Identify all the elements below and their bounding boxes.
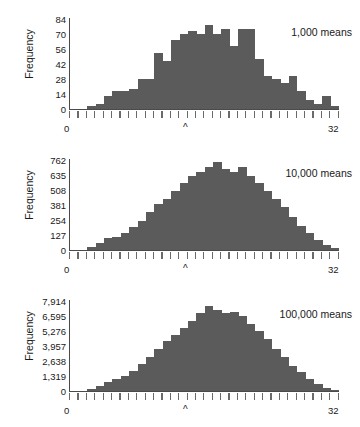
x-axis-tick (262, 252, 263, 259)
x-axis-tick (203, 111, 204, 118)
x-axis-tick (212, 393, 213, 400)
x-axis-tick (220, 252, 221, 259)
y-axis-tick-label: 381 (24, 201, 66, 211)
x-axis-tick (187, 393, 188, 400)
x-axis-tick (296, 252, 297, 259)
y-axis-tick-label: 84 (24, 15, 66, 25)
x-axis-tick (86, 393, 87, 400)
y-axis-tick-label: 7,914 (24, 297, 66, 307)
x-axis-tick (270, 252, 271, 259)
x-axis-tick (287, 393, 288, 400)
x-axis-tick (170, 252, 171, 259)
x-axis-tick (103, 393, 104, 400)
x-axis-tick (304, 393, 305, 400)
x-axis-tick (136, 393, 137, 400)
x-axis-tick (136, 252, 137, 259)
center-marker-caret: ^ (183, 263, 188, 274)
x-axis-tick (77, 252, 78, 259)
x-axis-tick (145, 252, 146, 259)
x-axis-tick (111, 252, 112, 259)
x-axis-tick (195, 111, 196, 118)
x-axis-tick (329, 252, 330, 259)
y-axis-tick-label: 56 (24, 45, 66, 55)
x-axis-tick (262, 393, 263, 400)
x-axis-tick (270, 393, 271, 400)
x-axis-tick (77, 111, 78, 118)
x-axis-tick (86, 252, 87, 259)
x-axis-ticks-2 (69, 252, 341, 260)
x-axis-tick (153, 111, 154, 118)
y-axis-tick-label: 42 (24, 60, 66, 70)
y-axis-tick-label: 3,957 (24, 342, 66, 352)
x-axis-tick (279, 252, 280, 259)
y-axis-tick-label: 2,638 (24, 357, 66, 367)
x-axis-tick (161, 111, 162, 118)
x-axis-tick (321, 252, 322, 259)
x-axis-tick (136, 111, 137, 118)
x-axis-tick (178, 252, 179, 259)
x-axis-tick (279, 393, 280, 400)
x-axis-line (69, 109, 339, 110)
y-axis-tick-label: 0 (24, 387, 66, 397)
x-axis-max-label: 32 (328, 406, 339, 416)
x-axis-max-label: 32 (328, 265, 339, 275)
histogram-bar (331, 106, 340, 108)
x-axis-tick (237, 393, 238, 400)
x-axis-ticks-1 (69, 111, 341, 119)
x-axis-line (69, 391, 339, 392)
x-axis-tick (321, 393, 322, 400)
x-axis-tick (245, 393, 246, 400)
y-axis-tick-label: 0 (24, 246, 66, 256)
x-axis-tick (161, 393, 162, 400)
y-axis-tick-label: 0 (24, 105, 66, 115)
x-axis-tick (296, 111, 297, 118)
x-axis-tick (119, 393, 120, 400)
x-axis-tick (145, 393, 146, 400)
x-axis-tick (103, 111, 104, 118)
x-axis-tick (279, 111, 280, 118)
x-axis-tick (312, 111, 313, 118)
x-axis-tick (161, 252, 162, 259)
x-axis-tick (338, 111, 339, 118)
y-axis-tick-label: 1,319 (24, 372, 66, 382)
x-axis-tick (287, 111, 288, 118)
y-axis-tick-label: 508 (24, 186, 66, 196)
x-axis-tick (212, 252, 213, 259)
x-axis-tick (69, 111, 70, 118)
x-axis-tick (111, 393, 112, 400)
x-axis-tick (195, 252, 196, 259)
x-axis-tick (245, 252, 246, 259)
x-axis-tick (287, 252, 288, 259)
x-axis-tick (329, 393, 330, 400)
x-axis-tick (296, 393, 297, 400)
y-axis-tick-labels-1: 0142842567084 (24, 18, 66, 110)
y-axis-tick-labels-3: 01,3192,6383,9575,2766,5957,914 (24, 300, 66, 392)
x-axis-min-label: 0 (64, 265, 69, 275)
figure-container: Frequency 0142842567084 0 32 ^ 1,000 mea… (0, 0, 360, 427)
x-axis-tick (103, 252, 104, 259)
histogram-panel-100000-means: Frequency 01,3192,6383,9575,2766,5957,91… (0, 282, 360, 424)
x-axis-tick (86, 111, 87, 118)
y-axis-tick-label: 70 (24, 30, 66, 40)
x-axis-tick (254, 111, 255, 118)
x-axis-tick (187, 252, 188, 259)
y-axis-tick-label: 762 (24, 156, 66, 166)
x-axis-tick (338, 252, 339, 259)
x-axis-tick (94, 252, 95, 259)
x-axis-tick (128, 252, 129, 259)
x-axis-tick (321, 111, 322, 118)
x-axis-tick (338, 393, 339, 400)
x-axis-tick (178, 111, 179, 118)
x-axis-tick (304, 111, 305, 118)
series-title-2: 10,000 means (285, 167, 352, 179)
x-axis-tick (312, 393, 313, 400)
x-axis-tick (195, 393, 196, 400)
x-axis-tick (228, 111, 229, 118)
x-axis-tick (69, 393, 70, 400)
x-axis-tick (237, 111, 238, 118)
x-axis-tick (203, 252, 204, 259)
x-axis-tick (212, 111, 213, 118)
x-axis-tick (128, 393, 129, 400)
x-axis-tick (170, 111, 171, 118)
x-axis-tick (262, 111, 263, 118)
